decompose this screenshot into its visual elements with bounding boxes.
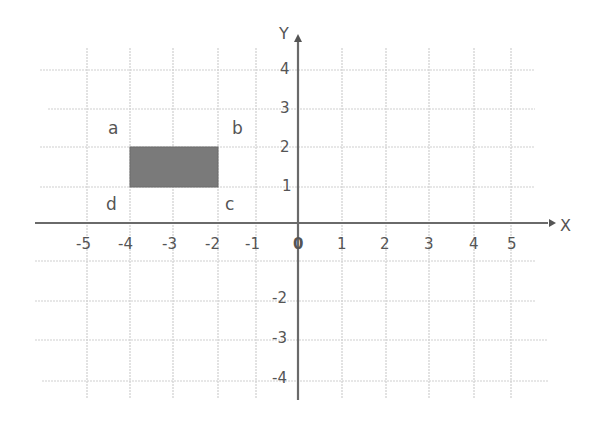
y-axis-arrow-icon	[294, 34, 302, 42]
x-tick-label: 5	[507, 237, 517, 252]
x-tick-label: -4	[118, 237, 133, 252]
x-tick-label: -1	[245, 237, 260, 252]
x-tick-label: 1	[337, 237, 347, 252]
x-tick-label: 3	[424, 237, 434, 252]
y-tick-label: 2	[280, 140, 290, 155]
x-axis-arrow-icon	[549, 219, 556, 227]
x-tick-label: -3	[162, 237, 177, 252]
corner-label-b: b	[232, 120, 243, 137]
y-axis-label: Y	[279, 26, 289, 42]
y-tick-label: 3	[280, 101, 290, 116]
shaded-rectangle	[130, 147, 218, 187]
corner-label-a: a	[108, 120, 118, 137]
y-tick-label: 4	[280, 62, 290, 77]
corner-label-d: d	[106, 196, 117, 213]
x-tick-label: 0	[293, 237, 303, 252]
horizontal-grid-lines	[35, 70, 548, 381]
corner-label-c: c	[225, 196, 234, 213]
x-tick-label: -2	[205, 237, 220, 252]
x-axis-label: X	[560, 218, 571, 234]
x-tick-label: 2	[380, 237, 390, 252]
x-tick-label: 4	[469, 237, 479, 252]
y-tick-label: -3	[272, 331, 287, 346]
y-tick-label: -2	[272, 291, 287, 306]
y-tick-label: 1	[282, 179, 292, 194]
y-tick-label: -4	[272, 371, 287, 386]
x-tick-label: -5	[76, 237, 91, 252]
coordinate-plane	[0, 0, 601, 421]
